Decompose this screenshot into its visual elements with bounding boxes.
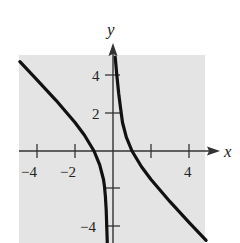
function-graph: y x −4 −2 4 4 2 −4 [0,0,240,243]
y-axis-label: y [105,20,115,39]
x-axis-label: x [223,142,232,161]
x-tick-label-neg4: −4 [21,164,37,180]
plot-background [19,55,205,243]
y-tick-label-4: 4 [92,68,100,84]
x-tick-label-4: 4 [184,164,192,180]
x-tick-label-neg2: −2 [60,164,76,180]
y-tick-label-neg4: −4 [80,219,96,235]
y-tick-label-2: 2 [92,106,100,122]
